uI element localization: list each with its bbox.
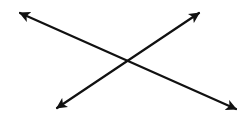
diagram-canvas — [0, 0, 243, 120]
intersecting-lines-diagram — [0, 0, 243, 120]
line-ascending — [57, 13, 199, 108]
